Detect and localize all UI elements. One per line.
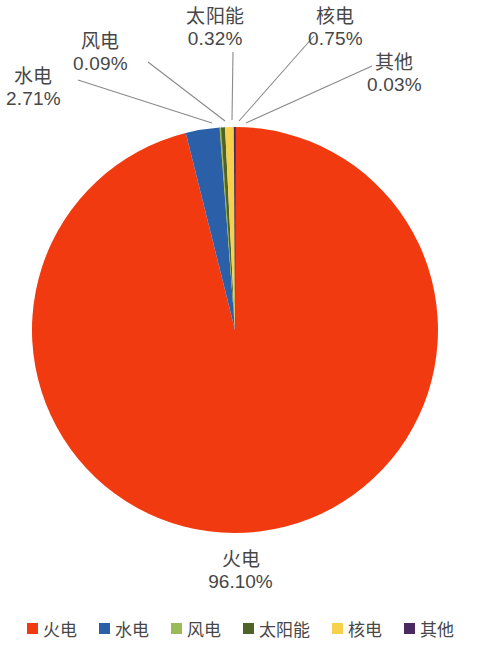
callout-label-other: 其他 0.03% [367,52,422,97]
callout-label-nuclear: 核电 0.75% [308,6,363,51]
callout-label-hydro: 水电 2.71% [6,66,61,111]
legend-item-label: 火电 [43,616,77,641]
leader-line-hydro [78,80,212,123]
callout-percent-solar: 0.32% [186,28,245,50]
callout-label-wind: 风电 0.09% [73,31,128,76]
callout-category-nuclear: 核电 [308,6,363,28]
legend-swatch-icon [27,623,38,634]
leader-line-solar [232,52,233,120]
callout-category-solar: 太阳能 [186,6,245,28]
callout-percent-other: 0.03% [367,74,422,96]
legend-swatch-icon [332,623,343,634]
legend-swatch-icon [404,623,415,634]
legend-item-label: 核电 [348,616,382,641]
legend-item-label: 水电 [115,616,149,641]
legend-item[interactable]: 核电 [332,616,382,641]
legend-item-label: 太阳能 [259,616,310,641]
callout-percent-hydro: 2.71% [6,88,61,110]
legend-swatch-icon [99,623,110,634]
chart-legend: 火电水电风电太阳能核电其他 [0,615,481,641]
callout-percent-wind: 0.09% [73,53,128,75]
callout-label-thermal: 火电 96.10% [0,549,481,594]
pie-slices-group [32,127,438,533]
leader-line-nuclear [239,36,314,121]
legend-swatch-icon [243,623,254,634]
callout-category-thermal: 火电 [0,549,481,571]
legend-item[interactable]: 水电 [99,616,149,641]
legend-item[interactable]: 风电 [171,616,221,641]
leader-line-wind [148,62,225,121]
callout-percent-thermal: 96.10% [0,571,481,593]
callout-category-wind: 风电 [73,31,128,53]
legend-item[interactable]: 火电 [27,616,77,641]
pie-chart: 水电 2.71% 风电 0.09% 太阳能 0.32% 核电 0.75% 其他 … [0,0,481,645]
callout-label-solar: 太阳能 0.32% [186,6,245,51]
legend-item[interactable]: 太阳能 [243,616,310,641]
legend-swatch-icon [171,623,182,634]
callout-category-hydro: 水电 [6,66,61,88]
leader-line-other [246,66,372,123]
legend-item-label: 风电 [187,616,221,641]
callout-percent-nuclear: 0.75% [308,28,363,50]
legend-item[interactable]: 其他 [404,616,454,641]
callout-category-other: 其他 [367,52,422,74]
legend-item-label: 其他 [420,616,454,641]
